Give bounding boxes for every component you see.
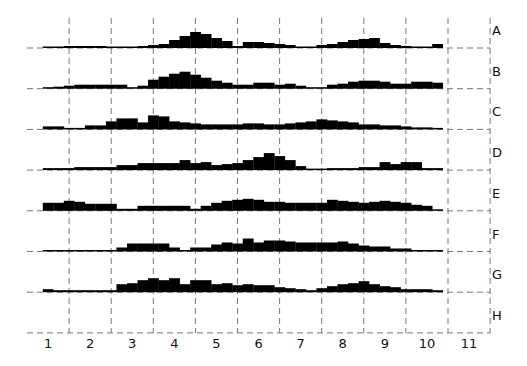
histogram-bar (43, 168, 54, 170)
histogram-bar (327, 44, 338, 48)
histogram-bar (85, 125, 96, 129)
histogram-bar (337, 121, 348, 129)
histogram-bar (222, 283, 233, 292)
histogram-bar (116, 85, 127, 89)
histogram-bar (201, 78, 212, 89)
histogram-bar (95, 204, 106, 211)
histogram-bar (295, 203, 306, 211)
histogram-bar (138, 86, 149, 89)
histogram-bar (369, 167, 380, 170)
histogram-bar (359, 167, 370, 170)
histogram-bar (95, 290, 106, 292)
histogram-bar (159, 280, 170, 292)
histogram-bar (243, 284, 254, 292)
histogram-bar (285, 203, 296, 211)
histogram-bar (253, 83, 264, 89)
histogram-bar (359, 124, 370, 129)
row-label: A (492, 23, 501, 38)
histogram-bar (380, 82, 391, 89)
histogram-bar (411, 289, 422, 292)
histogram-bar (222, 83, 233, 89)
histogram-bar (211, 165, 222, 170)
histogram-bar (390, 84, 401, 89)
x-tick-label: 6 (254, 336, 262, 351)
histogram-bar (380, 43, 391, 48)
histogram-bar (264, 124, 275, 129)
histogram-bar (222, 243, 233, 252)
histogram-bar (327, 286, 338, 292)
histogram-bar (432, 290, 443, 292)
histogram-bar (348, 40, 359, 48)
histogram-row-G (43, 278, 443, 292)
histogram-bar (74, 290, 85, 292)
histogram-bar (422, 127, 433, 129)
histogram-bar (401, 249, 412, 252)
histogram-bar (190, 163, 201, 170)
histogram-bar (232, 285, 243, 292)
histogram-bar (53, 250, 64, 252)
histogram-bar (180, 36, 191, 48)
histogram-bar (401, 289, 412, 292)
x-tick-labels: 1234567891011 (44, 336, 477, 351)
histogram-bar (390, 202, 401, 211)
histogram-bar (148, 115, 159, 129)
histogram-bar (43, 203, 54, 211)
histogram-bar (116, 284, 127, 292)
histogram-bar (43, 87, 54, 89)
histogram-bar (85, 167, 96, 170)
histogram-bar (43, 289, 54, 292)
histogram-bar (201, 280, 212, 292)
histogram-bar (380, 125, 391, 129)
histogram-bar (390, 125, 401, 129)
histogram-bar (359, 81, 370, 89)
x-tick-label: 11 (461, 336, 478, 351)
histogram-bar (138, 244, 149, 252)
histogram-bar (138, 206, 149, 211)
histogram-bar (106, 290, 117, 292)
histogram-bar (401, 46, 412, 48)
histogram-bar (264, 241, 275, 252)
histogram-bar (232, 46, 243, 48)
histogram-bar (190, 75, 201, 89)
histogram-bar (43, 126, 54, 129)
histogram-bar (222, 41, 233, 48)
histogram-bar (359, 246, 370, 252)
histogram-bar (327, 168, 338, 170)
histogram-bar (253, 157, 264, 170)
histogram-bar (180, 284, 191, 292)
histogram-bar (285, 84, 296, 89)
histogram-bar (411, 162, 422, 170)
histogram-bar (85, 85, 96, 89)
histogram-bar (253, 285, 264, 292)
histogram-bar (85, 290, 96, 292)
histogram-bar (64, 128, 75, 129)
histogram-bar (232, 200, 243, 211)
histogram-bar (138, 46, 149, 48)
histogram-bar (127, 283, 138, 292)
histogram-bar (285, 123, 296, 129)
histogram-bar (180, 122, 191, 129)
histogram-bar (390, 287, 401, 292)
histogram-bar (390, 45, 401, 48)
histogram-bar (169, 163, 180, 170)
histogram-bar (159, 44, 170, 48)
histogram-bar (295, 47, 306, 49)
histogram-bar (285, 242, 296, 252)
histogram-bar (95, 125, 106, 129)
histogram-bar (106, 167, 117, 170)
histogram-bar (295, 289, 306, 292)
histogram-bar (264, 43, 275, 48)
histogram-bar (390, 249, 401, 252)
row-label: H (492, 308, 502, 323)
histogram-bar (127, 165, 138, 170)
histogram-bar (169, 278, 180, 292)
histogram-bar (422, 289, 433, 292)
histogram-bar (295, 122, 306, 129)
x-tick-label: 5 (212, 336, 220, 351)
row-label: F (492, 227, 499, 242)
histogram-bar (53, 47, 64, 49)
histogram-bar (180, 206, 191, 211)
histogram-bar (337, 168, 348, 170)
histogram-bar (127, 47, 138, 49)
histogram-bar (74, 250, 85, 252)
